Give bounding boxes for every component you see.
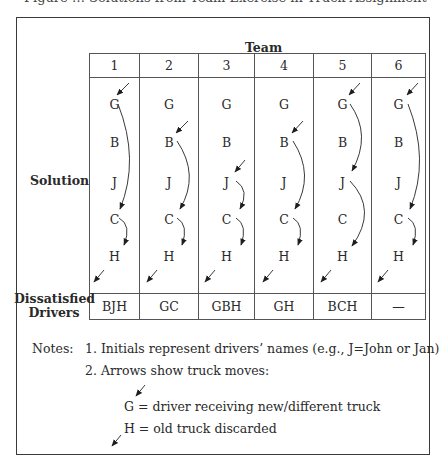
team-5-dissatisfied: BCH bbox=[313, 293, 372, 320]
driver-g: G bbox=[90, 97, 139, 112]
legend-new-truck: G = driver receiving new/different truck bbox=[124, 399, 380, 414]
driver-g: G bbox=[199, 97, 254, 112]
team-5-header: 5 bbox=[313, 53, 372, 78]
team-6-header: 6 bbox=[371, 53, 426, 78]
driver-j: J bbox=[140, 175, 198, 190]
team-6-solution: G B J C H bbox=[371, 77, 426, 294]
dissatisfied-label-line2: Drivers bbox=[14, 306, 94, 320]
driver-g: G bbox=[140, 97, 198, 112]
note-1: 1. Initials represent drivers’ names (e.… bbox=[85, 341, 439, 356]
driver-h: H bbox=[255, 249, 313, 264]
driver-c: C bbox=[140, 212, 198, 227]
team-4-header: 4 bbox=[254, 53, 314, 78]
driver-j: J bbox=[199, 175, 254, 190]
legend-discarded: H = old truck discarded bbox=[124, 421, 277, 436]
dissatisfied-label-line1: Dissatisfied bbox=[14, 292, 94, 306]
team-4-dissatisfied: GH bbox=[254, 293, 314, 320]
driver-h: H bbox=[90, 249, 139, 264]
driver-c: C bbox=[90, 212, 139, 227]
team-5-solution: G B J C H bbox=[313, 77, 372, 294]
note-2: 2. Arrows show truck moves: bbox=[85, 363, 269, 378]
driver-b: B bbox=[90, 135, 139, 150]
team-1-solution: G B J C H bbox=[89, 77, 140, 294]
dissatisfied-row-label: Dissatisfied Drivers bbox=[14, 292, 94, 320]
driver-h: H bbox=[140, 249, 198, 264]
team-2-header: 2 bbox=[139, 53, 199, 78]
team-3-dissatisfied: GBH bbox=[198, 293, 255, 320]
team-2-solution: G B J C H bbox=[139, 77, 199, 294]
notes-label: Notes: bbox=[32, 341, 74, 356]
driver-b: B bbox=[199, 135, 254, 150]
team-2-dissatisfied: GC bbox=[139, 293, 199, 320]
driver-b: B bbox=[314, 135, 371, 150]
driver-c: C bbox=[255, 212, 313, 227]
driver-c: C bbox=[372, 212, 425, 227]
driver-h: H bbox=[199, 249, 254, 264]
team-3-header: 3 bbox=[198, 53, 255, 78]
driver-c: C bbox=[314, 212, 371, 227]
driver-b: B bbox=[372, 135, 425, 150]
figure-caption-cut: Figure … Solutions from Team Exercise in… bbox=[24, 0, 427, 5]
driver-g: G bbox=[255, 97, 313, 112]
team-3-solution: G B J C H bbox=[198, 77, 255, 294]
driver-b: B bbox=[140, 135, 198, 150]
solutions-table: 1 2 3 4 5 6 G B J C H G B J C H G B J C … bbox=[89, 53, 426, 320]
driver-g: G bbox=[372, 97, 425, 112]
driver-h: H bbox=[314, 249, 371, 264]
solution-row-label: Solution bbox=[30, 173, 86, 188]
driver-h: H bbox=[372, 249, 425, 264]
team-1-dissatisfied: BJH bbox=[89, 293, 140, 320]
driver-j: J bbox=[372, 175, 425, 190]
driver-c: C bbox=[199, 212, 254, 227]
team-6-dissatisfied: — bbox=[371, 293, 426, 320]
team-1-header: 1 bbox=[89, 53, 140, 78]
driver-j: J bbox=[314, 175, 371, 190]
team-4-solution: G B J C H bbox=[254, 77, 314, 294]
driver-j: J bbox=[255, 175, 313, 190]
driver-b: B bbox=[255, 135, 313, 150]
driver-g: G bbox=[314, 97, 371, 112]
driver-j: J bbox=[90, 175, 139, 190]
